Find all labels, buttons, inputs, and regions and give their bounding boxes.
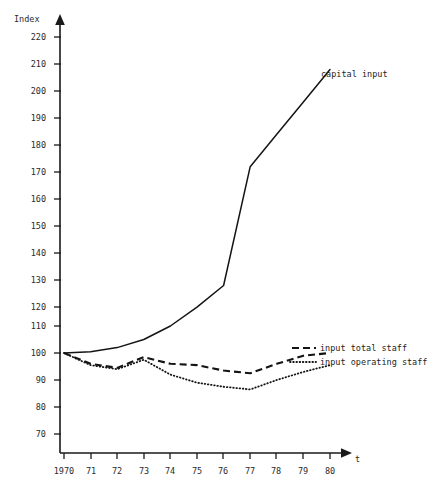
x-tick-label: 1970: [54, 466, 74, 476]
annotation-capital-input: capital input: [321, 69, 388, 79]
x-axis-arrowhead: [341, 448, 352, 458]
annotation-input-total-staff: input total staff: [292, 343, 407, 353]
y-tick-label: 220: [31, 32, 46, 42]
y-tick-label-group: 220 210 200 190 180 170 160 150 140 130 …: [31, 32, 46, 439]
y-tick-label: 80: [36, 402, 46, 412]
x-tick-label: 76: [218, 466, 228, 476]
annotation-label-input-total-staff: input total staff: [320, 343, 407, 353]
y-tick-label: 200: [31, 86, 46, 96]
x-tick-label-group: 1970 71 72 73 74 75 76 77 78 79 80: [54, 466, 335, 476]
series-group: [64, 70, 330, 390]
x-tick-label: 71: [86, 466, 96, 476]
x-tick-group: [64, 453, 330, 459]
x-tick-label: 79: [298, 466, 308, 476]
y-tick-label: 70: [36, 429, 46, 439]
series-line-input-operating-staff: [64, 353, 330, 389]
x-tick-label: 78: [271, 466, 281, 476]
x-tick-label: 80: [325, 466, 335, 476]
x-tick-label: 74: [165, 466, 175, 476]
annotation-input-operating-staff: input operating staff: [290, 357, 427, 367]
line-chart-canvas: Index t 220: [0, 0, 442, 483]
annotation-label-input-operating-staff: input operating staff: [320, 357, 427, 367]
y-tick-label: 100: [31, 348, 46, 358]
y-axis-title: Index: [14, 14, 40, 24]
annotation-label-capital-input: capital input: [321, 69, 388, 79]
x-tick-label: 75: [192, 466, 202, 476]
y-tick-label: 160: [31, 194, 46, 204]
y-tick-label: 110: [31, 321, 46, 331]
series-line-capital-input: [64, 70, 330, 354]
y-axis-arrowhead: [55, 14, 65, 25]
y-tick-label: 210: [31, 59, 46, 69]
chart-figure: Index t 220: [0, 0, 442, 483]
y-tick-label: 90: [36, 375, 46, 385]
x-tick-label: 73: [139, 466, 149, 476]
y-tick-label: 180: [31, 140, 46, 150]
y-tick-label: 190: [31, 113, 46, 123]
series-line-input-total-staff: [64, 353, 330, 373]
y-tick-label: 130: [31, 275, 46, 285]
y-tick-label: 140: [31, 248, 46, 258]
y-tick-label: 120: [31, 302, 46, 312]
x-tick-label: 72: [112, 466, 122, 476]
x-tick-label: 77: [245, 466, 255, 476]
y-tick-label: 170: [31, 167, 46, 177]
x-axis-title: t: [355, 454, 360, 464]
y-tick-label: 150: [31, 221, 46, 231]
